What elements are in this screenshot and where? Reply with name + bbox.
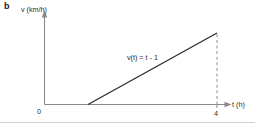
y-axis-label: v (km/h)	[21, 6, 47, 13]
figure-container: b v (km/h) t (h) 0 4 v(t) = t - 1	[0, 0, 255, 123]
x-axis-label: t (h)	[232, 101, 245, 108]
equation-annotation: v(t) = t - 1	[127, 54, 158, 61]
x-tick-label-4: 4	[214, 110, 218, 117]
x-axis-arrow-icon	[225, 102, 232, 107]
x-tick-label-0: 0	[37, 108, 41, 115]
velocity-line	[88, 33, 217, 105]
